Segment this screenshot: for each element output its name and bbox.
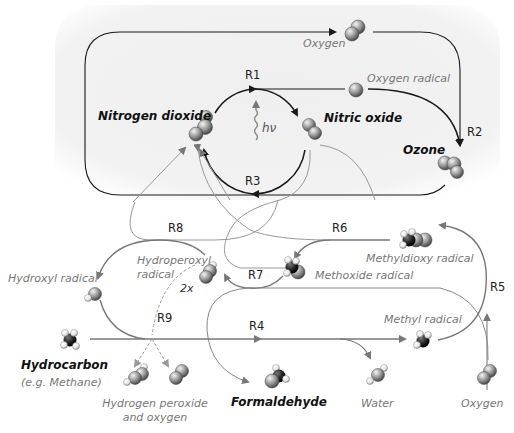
oxygen-radical-label: Oxygen radical: [367, 72, 450, 85]
r9-to-peroxide-arrow: [135, 339, 152, 366]
methyl-radical-label: Methyl radical: [384, 313, 462, 326]
methyl-radical-molecule-icon: [414, 331, 432, 349]
water-branch-arrow: [340, 339, 370, 358]
reaction-r3-label: R3: [245, 175, 260, 188]
reaction-r1-label: R1: [245, 69, 260, 82]
reaction-r7-label: R7: [248, 269, 263, 282]
water-label: Water: [361, 397, 394, 410]
formaldehyde-molecule-icon: [265, 365, 290, 389]
oxygen-product-molecule-icon: [170, 365, 189, 385]
ozone-label: Ozone: [403, 144, 445, 157]
methyldioxy-radical-label: Methyldioxy radical: [366, 252, 474, 265]
hydrogen-peroxide-molecule-icon: [124, 364, 149, 386]
reaction-r5-label: R5: [490, 281, 505, 294]
hydroperoxyl-radical-label-line2: radical: [137, 268, 174, 281]
nitrogen-dioxide-label: Nitrogen dioxide: [98, 110, 211, 123]
hydroxyl-to-r4-line: [100, 300, 145, 339]
oxygen-reactant-molecule-icon: [478, 365, 497, 385]
hydroxyl-radical-label: Hydroxyl radical: [8, 272, 98, 285]
water-molecule-icon: [367, 365, 388, 385]
reaction-r9-label: R9: [157, 312, 172, 325]
oxygen-radical-atom-icon: [349, 83, 363, 97]
hydroperoxyl-radical-label-line1: Hydroperoxyl: [137, 254, 211, 267]
hydrocarbon-example-label: (e.g. Methane): [21, 376, 102, 389]
methane-molecule-icon: [61, 330, 80, 350]
oxygen-to-formaldehyde-arrow: [207, 288, 488, 382]
oxygen-bottom-label: Oxygen: [461, 397, 503, 410]
hv-light-label: hν: [262, 122, 276, 135]
reaction-r2-label: R2: [467, 126, 482, 139]
multiplier-label: 2x: [180, 282, 194, 295]
hydrocarbon-label: Hydrocarbon: [21, 359, 108, 372]
hydrogen-peroxide-label-line2: and oxygen: [100, 411, 210, 424]
methoxide-radical-label: Methoxide radical: [315, 269, 413, 282]
smog-reaction-diagram: Oxygen R1 Oxygen radical Nitrogen dioxid…: [0, 0, 514, 433]
nitric-oxide-label: Nitric oxide: [324, 112, 402, 125]
atmosphere-panel: [55, 5, 500, 200]
reaction-r4-label: R4: [249, 320, 264, 333]
oxygen-top-label: Oxygen: [303, 37, 345, 50]
r8-loop-line: [130, 200, 278, 240]
methyldioxy-radical-molecule-icon: [400, 229, 433, 249]
r9-to-oxygen-arrow: [152, 339, 168, 366]
formaldehyde-label: Formaldehyde: [231, 396, 327, 409]
methoxide-radical-molecule-icon: [284, 257, 306, 280]
hydroxyl-radical-molecule-icon: [85, 288, 102, 302]
hydrogen-peroxide-label-line1: Hydrogen peroxide: [100, 397, 210, 410]
reaction-r8-label: R8: [168, 222, 183, 235]
reaction-r6-label: R6: [332, 222, 347, 235]
